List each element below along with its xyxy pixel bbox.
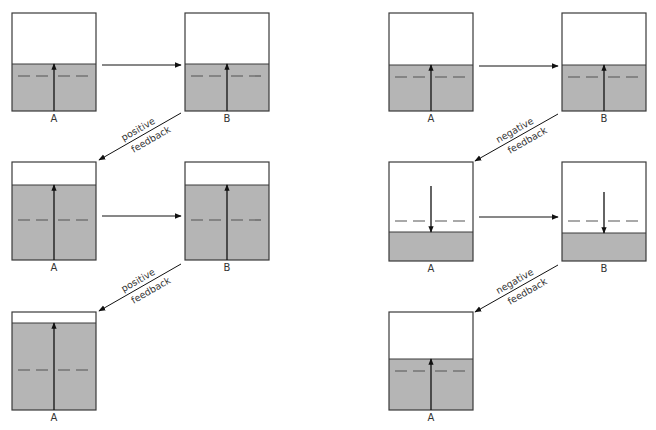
container-b: [562, 162, 646, 261]
container-b: [185, 13, 269, 111]
container-a: [389, 162, 473, 261]
container-label: A: [51, 113, 58, 124]
container-label: B: [224, 262, 231, 273]
container-label: A: [51, 262, 58, 273]
feedback-arrow-icon: [99, 264, 181, 311]
container-a: [389, 312, 473, 410]
container-b: [562, 13, 646, 111]
container-a: [12, 13, 96, 111]
container-label: A: [428, 412, 435, 423]
container-label: A: [428, 263, 435, 274]
container-a: [389, 13, 473, 111]
arrows-layer: [99, 65, 558, 312]
container-label: B: [601, 263, 608, 274]
labels-layer: ABABAABABApositivefeedbackpositivefeedba…: [51, 110, 608, 423]
container-b: [185, 162, 269, 260]
containers-layer: [12, 13, 646, 410]
feedback-arrow-icon: [475, 114, 558, 161]
container-label: B: [601, 113, 608, 124]
container-a: [12, 312, 96, 410]
feedback-arrow-icon: [99, 113, 181, 160]
fluid-level: [562, 233, 646, 261]
fluid-level: [389, 232, 473, 261]
feedback-arrow-icon: [475, 265, 558, 312]
container-label: A: [428, 113, 435, 124]
container-a: [12, 162, 96, 260]
container-label: B: [224, 113, 231, 124]
container-label: A: [51, 412, 58, 423]
feedback-diagram: ABABAABABApositivefeedbackpositivefeedba…: [0, 0, 656, 430]
